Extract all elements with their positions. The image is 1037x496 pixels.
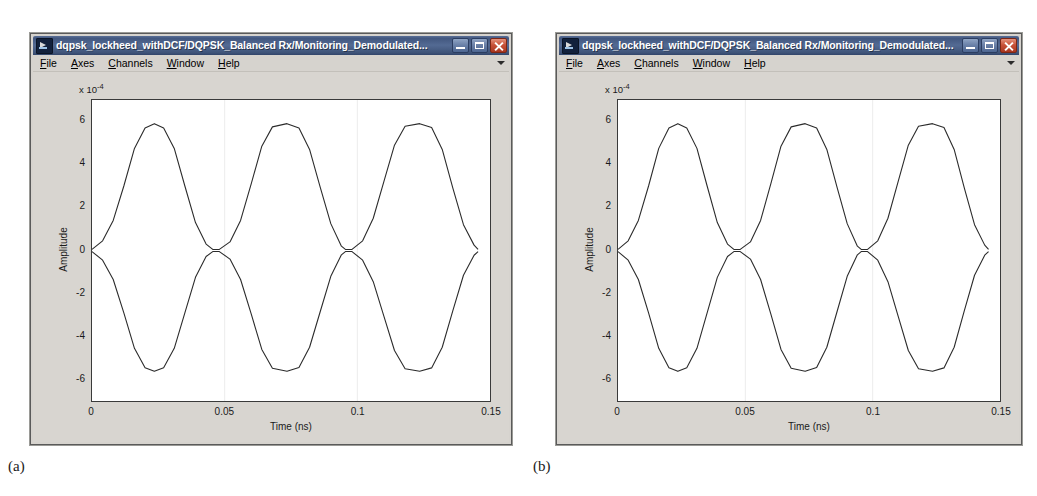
menu-item-file[interactable]: File: [559, 55, 590, 72]
window-controls: [962, 38, 1017, 53]
x-tick-label: 0.05: [725, 406, 765, 417]
trace-upper-envelope: [618, 124, 989, 250]
menu-item-axes[interactable]: Axes: [64, 55, 101, 72]
menu-bar: FileAxesChannelsWindowHelp: [33, 55, 509, 72]
close-icon: [491, 39, 506, 52]
y-axis-label: Amplitude: [584, 219, 595, 279]
menu-item-window[interactable]: Window: [160, 55, 211, 72]
y-tick-label: 6: [61, 114, 85, 125]
y-tick-label: -6: [587, 373, 611, 384]
plot-axes[interactable]: [91, 99, 491, 402]
menu-item-channels[interactable]: Channels: [101, 55, 159, 72]
menu-item-help[interactable]: Help: [737, 55, 773, 72]
y-axis-label: Amplitude: [58, 219, 69, 279]
minimize-icon: [963, 39, 978, 52]
y-axis-multiplier-base: x 10: [79, 84, 97, 95]
x-tick-label: 0: [597, 406, 637, 417]
y-tick-label: -4: [587, 330, 611, 341]
y-tick-label: 2: [587, 200, 611, 211]
chevron-down-icon[interactable]: [496, 59, 505, 68]
menu-item-axes[interactable]: Axes: [590, 55, 627, 72]
y-axis-multiplier: x 10-4: [605, 82, 630, 95]
x-tick-label: 0.1: [338, 406, 378, 417]
y-axis-multiplier: x 10-4: [79, 82, 104, 95]
scope-window[interactable]: dqpsk_lockheed_withDCF/DQPSK_Balanced Rx…: [30, 33, 512, 445]
y-axis-multiplier-base: x 10: [605, 84, 623, 95]
x-tick-label: 0.1: [853, 406, 893, 417]
maximize-button[interactable]: [981, 38, 998, 53]
scope-window[interactable]: dqpsk_lockheed_withDCF/DQPSK_Balanced Rx…: [556, 33, 1022, 445]
y-axis-multiplier-exponent: -4: [623, 82, 630, 91]
title-bar[interactable]: dqpsk_lockheed_withDCF/DQPSK_Balanced Rx…: [33, 36, 509, 55]
window-title: dqpsk_lockheed_withDCF/DQPSK_Balanced Rx…: [56, 36, 452, 55]
x-tick-label: 0.15: [981, 406, 1021, 417]
maximize-icon: [472, 39, 487, 52]
menu-item-help[interactable]: Help: [211, 55, 247, 72]
y-tick-label: 2: [61, 200, 85, 211]
x-tick-label: 0.15: [471, 406, 511, 417]
menu-item-window[interactable]: Window: [686, 55, 737, 72]
subfigure-caption: (a): [8, 458, 25, 475]
chevron-down-icon[interactable]: [1006, 59, 1015, 68]
menu-item-channels[interactable]: Channels: [627, 55, 685, 72]
minimize-icon: [453, 39, 468, 52]
y-axis-multiplier-exponent: -4: [97, 82, 104, 91]
x-tick-label: 0: [71, 406, 111, 417]
title-bar[interactable]: dqpsk_lockheed_withDCF/DQPSK_Balanced Rx…: [559, 36, 1019, 55]
figure-panel: x 10-46420-2-4-600.050.10.15Time (ns)Amp…: [559, 72, 1019, 442]
close-icon: [1001, 39, 1016, 52]
subfigure-caption: (b): [533, 458, 551, 475]
window-title: dqpsk_lockheed_withDCF/DQPSK_Balanced Rx…: [582, 36, 962, 55]
waveform-canvas: [92, 100, 490, 401]
x-tick-label: 0.05: [204, 406, 244, 417]
menu-bar: FileAxesChannelsWindowHelp: [559, 55, 1019, 72]
y-tick-label: 4: [61, 157, 85, 168]
figure-panel: x 10-46420-2-4-600.050.10.15Time (ns)Amp…: [33, 72, 509, 442]
y-tick-label: -4: [61, 330, 85, 341]
y-tick-label: -2: [587, 287, 611, 298]
window-controls: [452, 38, 507, 53]
close-button[interactable]: [1000, 38, 1017, 53]
trace-upper-envelope: [92, 124, 478, 250]
menu-item-file[interactable]: File: [33, 55, 64, 72]
plot-axes[interactable]: [617, 99, 1001, 402]
waveform-canvas: [618, 100, 1000, 401]
y-tick-label: 4: [587, 157, 611, 168]
minimize-button[interactable]: [452, 38, 469, 53]
y-tick-label: -6: [61, 373, 85, 384]
y-tick-label: -2: [61, 287, 85, 298]
minimize-button[interactable]: [962, 38, 979, 53]
close-button[interactable]: [490, 38, 507, 53]
x-axis-label: Time (ns): [617, 421, 1001, 432]
maximize-button[interactable]: [471, 38, 488, 53]
scope-waveform-icon: [36, 38, 53, 54]
scope-waveform-icon: [562, 38, 579, 54]
x-axis-label: Time (ns): [91, 421, 491, 432]
trace-lower-envelope: [618, 252, 989, 372]
maximize-icon: [982, 39, 997, 52]
y-tick-label: 6: [587, 114, 611, 125]
trace-lower-envelope: [92, 252, 478, 372]
